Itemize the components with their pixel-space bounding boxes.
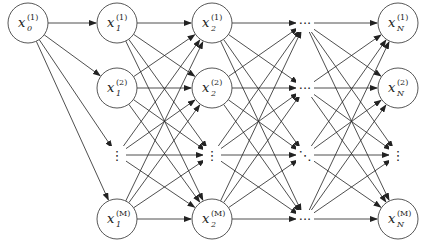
edge-arrow xyxy=(312,160,380,207)
node-circle xyxy=(8,3,48,43)
node-circle xyxy=(378,3,418,43)
node-superscript: (2) xyxy=(116,78,127,87)
node-superscript: (M) xyxy=(397,209,411,218)
node-superscript: (2) xyxy=(397,78,408,87)
node-subscript: 0 xyxy=(27,24,32,33)
node-circle xyxy=(97,199,137,239)
node-x0-1: x0(1) xyxy=(8,3,48,43)
svg-text:⋮: ⋮ xyxy=(206,148,219,163)
edge-arrow xyxy=(36,41,108,200)
node-circle xyxy=(97,68,137,108)
node-label: x xyxy=(18,15,26,30)
ellipsis: ··· xyxy=(296,210,314,228)
node-x2-1: x2(2) xyxy=(192,68,232,108)
svg-text:···: ··· xyxy=(299,212,311,227)
node-circle xyxy=(192,68,232,108)
node-subscript: 2 xyxy=(210,220,216,229)
node-x1-3: x1(M) xyxy=(97,199,137,239)
node-x1-0: x1(1) xyxy=(97,3,137,43)
edge-arrow xyxy=(134,160,205,208)
ellipsis: ⋮ xyxy=(203,146,221,164)
edge-arrow xyxy=(224,104,300,211)
edges xyxy=(36,23,393,219)
edge-arrow xyxy=(310,95,386,202)
node-superscript: (1) xyxy=(116,13,127,22)
node-x1-1: x1(2) xyxy=(97,68,137,108)
node-subscript: 2 xyxy=(210,24,216,33)
edge-arrow xyxy=(312,28,380,76)
edge-arrow xyxy=(228,28,297,76)
edge-arrow xyxy=(309,31,389,200)
svg-text:···: ··· xyxy=(299,81,311,96)
ellipsis: ··· xyxy=(296,79,314,97)
node-circle xyxy=(192,3,232,43)
node-subscript: N xyxy=(396,89,405,98)
node-subscript: 2 xyxy=(210,89,216,98)
edge-arrow xyxy=(228,34,297,82)
node-label: x xyxy=(388,15,396,30)
edge-arrow xyxy=(312,35,380,83)
edge-arrow xyxy=(224,39,300,147)
node-circle xyxy=(378,68,418,108)
node-superscript: (M) xyxy=(116,209,130,218)
node-circle xyxy=(378,199,418,239)
node-label: x xyxy=(107,211,115,226)
edge-arrow xyxy=(310,40,386,147)
node-superscript: (1) xyxy=(211,13,222,22)
node-label: x xyxy=(202,211,210,226)
edge-arrow xyxy=(134,35,195,77)
node-superscript: (M) xyxy=(211,209,225,218)
node-label: x xyxy=(107,80,115,95)
node-label: x xyxy=(388,211,396,226)
svg-text:···: ··· xyxy=(299,16,311,31)
edge-arrow xyxy=(312,100,381,149)
node-subscript: 1 xyxy=(116,24,121,33)
nodes: x0(1)x1(1)x1(2)⋮x1(M)x2(1)x2(2)⋮x2(M)···… xyxy=(8,3,418,239)
edge-arrow xyxy=(221,31,302,201)
node-circle xyxy=(97,3,137,43)
node-x2-0: x2(1) xyxy=(192,3,232,43)
ellipsis: ⋮ xyxy=(108,146,126,164)
edge-arrow xyxy=(134,34,195,76)
node-label: x xyxy=(388,80,396,95)
node-xN-0: xN(1) xyxy=(378,3,418,43)
node-xN-3: xN(M) xyxy=(378,199,418,239)
edge-arrow xyxy=(228,160,297,208)
edge-arrow xyxy=(310,105,386,212)
node-label: x xyxy=(202,80,210,95)
edge-arrow xyxy=(224,95,300,202)
ellipsis: ⋱ xyxy=(296,146,314,164)
node-label: x xyxy=(202,15,210,30)
node-superscript: (2) xyxy=(211,78,222,87)
svg-text:⋮: ⋮ xyxy=(111,148,124,163)
node-subscript: N xyxy=(396,24,405,33)
node-subscript: N xyxy=(396,220,405,229)
node-superscript: (1) xyxy=(27,13,38,22)
edge-arrow xyxy=(124,100,194,150)
node-subscript: 1 xyxy=(116,220,121,229)
node-circle xyxy=(192,199,232,239)
edge-arrow xyxy=(228,100,297,150)
node-label: x xyxy=(107,15,115,30)
trellis-diagram: x0(1)x1(1)x1(2)⋮x1(M)x2(1)x2(2)⋮x2(M)···… xyxy=(0,0,426,247)
ellipsis: ··· xyxy=(296,14,314,32)
edge-arrow xyxy=(124,160,194,207)
svg-text:⋮: ⋮ xyxy=(392,148,405,163)
node-subscript: 1 xyxy=(116,89,121,98)
node-superscript: (1) xyxy=(397,13,408,22)
edge-arrow xyxy=(44,35,100,76)
svg-text:⋱: ⋱ xyxy=(299,148,312,163)
node-x2-3: x2(M) xyxy=(192,199,232,239)
ellipsis: ⋮ xyxy=(389,146,407,164)
node-xN-1: xN(2) xyxy=(378,68,418,108)
